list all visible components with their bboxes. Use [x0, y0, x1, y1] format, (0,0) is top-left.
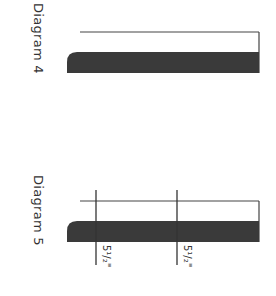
diagram-5-marker-2-label: 5¹/₂": [182, 245, 193, 267]
diagram-5-marker-1-label: 5¹/₂": [101, 245, 112, 267]
diagram-5-drawing: [0, 0, 276, 296]
